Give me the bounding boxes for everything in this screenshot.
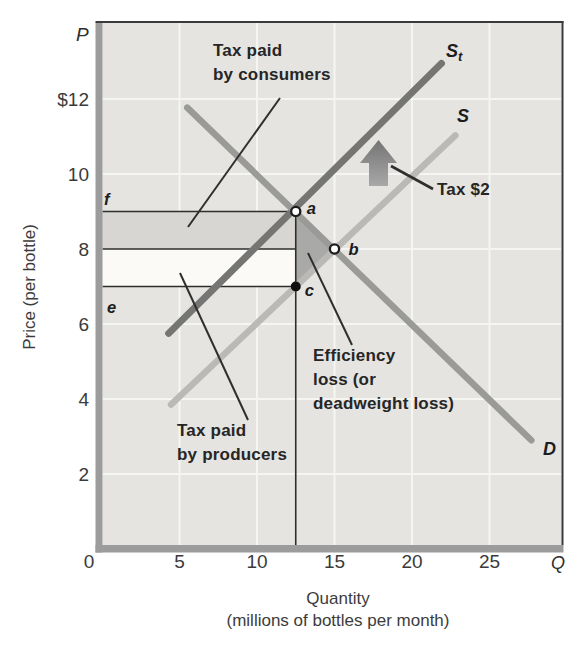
y-axis-symbol: P xyxy=(76,24,89,46)
y-tick-label: 10 xyxy=(0,165,89,185)
annotation-tax-paid-by-consumers: Tax paid by consumers xyxy=(213,39,331,87)
x-tick-label: 15 xyxy=(313,552,357,572)
point-c-label: c xyxy=(305,281,314,299)
plot-right-edge xyxy=(562,21,564,545)
x-tick-label: 10 xyxy=(235,552,279,572)
plot-top-edge xyxy=(96,21,564,23)
y-tick-label: 4 xyxy=(0,390,89,410)
point-b-marker xyxy=(330,244,339,253)
y-tick-label: $12 xyxy=(0,90,89,110)
x-tick-label: 0 xyxy=(67,552,111,572)
y-tick-label: 2 xyxy=(0,465,89,485)
guide-label-e: e xyxy=(107,298,116,316)
y-axis-band xyxy=(96,23,103,553)
point-b-label: b xyxy=(349,240,359,258)
demand-curve-label: D xyxy=(543,439,556,459)
tax-paid-by-producers-region xyxy=(102,249,296,287)
x-tick-label: 5 xyxy=(158,552,202,572)
tax-incidence-figure: feStSDabc P Q Tax paid by consumers Tax … xyxy=(0,0,586,646)
x-axis-subtitle: (millions of bottles per month) xyxy=(118,611,558,631)
annotation-efficiency-loss: Efficiency loss (or deadweight loss) xyxy=(313,344,454,416)
x-tick-label: 20 xyxy=(390,552,434,572)
x-axis-title: Quantity xyxy=(188,589,488,609)
supply-curve-label: S xyxy=(457,106,469,126)
x-tick-label: 25 xyxy=(468,552,512,572)
y-tick-label: 6 xyxy=(0,315,89,335)
annotation-tax-paid-by-producers: Tax paid by producers xyxy=(177,419,287,467)
annotation-tax-amount: Tax $2 xyxy=(437,178,490,202)
point-a-label: a xyxy=(307,199,316,217)
y-axis-title: Price (per bottle) xyxy=(19,207,41,367)
tax-paid-by-consumers-region xyxy=(102,212,296,250)
point-c-marker xyxy=(291,282,301,292)
x-axis-symbol: Q xyxy=(551,553,565,574)
point-a-marker xyxy=(291,207,300,216)
y-tick-label: 8 xyxy=(0,240,89,260)
